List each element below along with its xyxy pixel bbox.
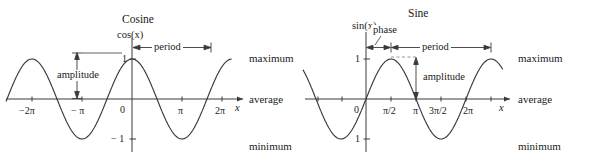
sine-x-tick-label-zero: 0 (354, 105, 359, 115)
sine-phase-label: phase (371, 25, 399, 36)
trig-functions-figure: Cosine cos(x) x −2π − π 0 π 2π 1 − 1 per… (0, 0, 591, 167)
sine-x-tick-label-2pi: 2π (463, 106, 473, 116)
cosine-y-axis-label: cos(x) (117, 30, 143, 41)
sine-x-tick-label-3pi-over-2: 3π/2 (429, 106, 447, 116)
sine-y-tick-label-neg-one: 1 (355, 134, 360, 144)
cosine-minimum-label: minimum (249, 141, 292, 152)
cosine-maximum-label: maximum (249, 53, 294, 64)
sine-minimum-label: minimum (518, 141, 561, 152)
cosine-y-tick-label-neg-one: − 1 (111, 134, 124, 144)
sine-amplitude-label: amplitude (421, 72, 467, 83)
sine-period-label: period (420, 42, 451, 53)
cosine-x-axis-label: x (235, 103, 240, 114)
sine-x-tick-label-pi-over-2: π/2 (383, 106, 396, 116)
sine-y-tick-label-one: 1 (355, 54, 360, 64)
sine-x-axis-label: x (499, 103, 504, 114)
cosine-x-tick-label-zero: 0 (120, 105, 125, 115)
cosine-x-tick-label-pi: π (178, 106, 183, 116)
cosine-average-label: average (249, 94, 283, 105)
cosine-x-axis-arrowhead (237, 97, 243, 102)
sine-phase-arrow (367, 36, 392, 53)
cosine-period-label: period (152, 42, 183, 53)
sine-title: Sine (408, 8, 428, 20)
cosine-y-tick-label-one: 1 (122, 54, 127, 64)
cosine-chart-panel: Cosine cos(x) x −2π − π 0 π 2π 1 − 1 per… (0, 0, 295, 167)
sine-maximum-label: maximum (518, 53, 563, 64)
sine-x-axis-arrowhead (504, 97, 510, 102)
cosine-x-tick-label-neg2pi: −2π (19, 106, 35, 116)
sine-chart-panel: Sine sin(x) x 0 π/2 π 3π/2 2π 1 1 phase … (295, 0, 591, 167)
cosine-x-tick-label-2pi: 2π (215, 106, 225, 116)
cosine-amplitude-label: amplitude (55, 70, 101, 81)
sine-amplitude-arrow (414, 58, 419, 100)
cosine-title: Cosine (122, 14, 154, 26)
sine-x-tick-label-pi: π (413, 106, 418, 116)
cosine-x-tick-label-negpi: − π (71, 106, 84, 116)
sine-average-label: average (518, 94, 552, 105)
